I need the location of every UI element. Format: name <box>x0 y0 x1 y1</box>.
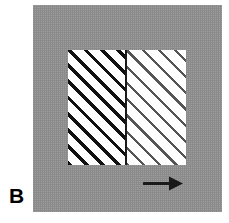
left-domain-hatching <box>68 50 126 165</box>
right-domain-hatching <box>126 50 186 165</box>
figure-panel: B <box>0 0 229 223</box>
panel-label: B <box>9 185 24 206</box>
direction-arrow-icon <box>143 176 184 191</box>
hatched-specimen-panel <box>68 50 186 165</box>
domain-boundary-line <box>125 50 127 165</box>
